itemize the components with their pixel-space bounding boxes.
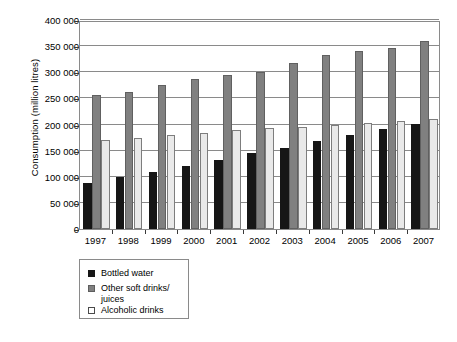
bar xyxy=(355,51,363,229)
bar xyxy=(289,63,297,229)
bar xyxy=(331,125,339,230)
bar xyxy=(313,141,321,229)
x-axis-tick-mark xyxy=(243,230,244,234)
x-axis-tick-mark xyxy=(177,230,178,234)
y-axis-tick-label: 0 xyxy=(5,224,79,235)
x-axis-tick-label: 2007 xyxy=(413,235,434,246)
y-axis-tick-label: 200 000 xyxy=(5,120,79,131)
bar xyxy=(158,85,166,229)
x-axis-tick-mark xyxy=(145,230,146,234)
legend-item: Bottled water xyxy=(88,268,154,279)
x-axis-tick-mark xyxy=(407,230,408,234)
x-axis-tick-mark xyxy=(276,230,277,234)
x-axis-tick-mark xyxy=(309,230,310,234)
y-axis-tick-label: 350 000 xyxy=(5,41,79,52)
x-axis-tick-label: 2005 xyxy=(347,235,368,246)
x-axis-tick-label: 2002 xyxy=(249,235,270,246)
y-axis-tick-label: 250 000 xyxy=(5,93,79,104)
y-axis-tick: 300 000 xyxy=(0,73,79,74)
x-axis-tick-label: 1997 xyxy=(85,235,106,246)
legend-swatch-icon xyxy=(88,307,95,314)
bar xyxy=(411,124,419,229)
plot-area xyxy=(79,21,440,230)
bar xyxy=(397,121,405,229)
gridline xyxy=(80,19,439,20)
x-axis-tick-label: 2000 xyxy=(183,235,204,246)
y-axis-tick: 400 000 xyxy=(0,21,79,22)
bar xyxy=(232,130,240,229)
x-axis-tick-label: 2004 xyxy=(315,235,336,246)
bar xyxy=(134,138,142,229)
bar-group xyxy=(379,22,405,229)
x-axis-tick-label: 2006 xyxy=(380,235,401,246)
chart-figure: Consumption (million litres) 050 000100 … xyxy=(0,0,457,342)
bar-group xyxy=(116,22,142,229)
bar xyxy=(167,135,175,229)
x-axis-tick-mark xyxy=(112,230,113,234)
legend-label: Other soft drinks/ juices xyxy=(101,283,170,305)
bar xyxy=(116,177,124,229)
bar xyxy=(223,75,231,229)
bar xyxy=(346,135,354,229)
y-axis-tick: 250 000 xyxy=(0,99,79,100)
bar xyxy=(364,123,372,229)
bar-group xyxy=(247,22,273,229)
bar-group xyxy=(149,22,175,229)
y-axis-tick: 0 xyxy=(0,230,79,231)
y-axis-tick-label: 400 000 xyxy=(5,15,79,26)
bar xyxy=(280,148,288,230)
bar xyxy=(265,128,273,229)
bar-group xyxy=(346,22,372,229)
y-axis-tick-label: 150 000 xyxy=(5,146,79,157)
chart-legend: Bottled waterOther soft drinks/ juicesAl… xyxy=(79,259,189,319)
x-axis-tick-mark xyxy=(342,230,343,234)
bar xyxy=(182,166,190,229)
bar xyxy=(322,55,330,229)
legend-label: Alcoholic drinks xyxy=(101,305,164,316)
y-axis-tick: 50 000 xyxy=(0,204,79,205)
bar xyxy=(83,183,91,230)
y-axis-tick: 100 000 xyxy=(0,178,79,179)
bar xyxy=(125,92,133,229)
bar xyxy=(379,129,387,229)
bar xyxy=(191,79,199,229)
y-axis-tick: 150 000 xyxy=(0,152,79,153)
y-axis-tick-label: 300 000 xyxy=(5,67,79,78)
bar xyxy=(149,172,157,229)
legend-item: Other soft drinks/ juices xyxy=(88,283,170,305)
bar-group xyxy=(313,22,339,229)
bar-group xyxy=(411,22,437,229)
x-axis-tick-label: 1998 xyxy=(118,235,139,246)
bar xyxy=(200,133,208,229)
bar xyxy=(298,127,306,229)
x-axis-tick-mark xyxy=(210,230,211,234)
bar-group xyxy=(280,22,306,229)
bar xyxy=(247,153,255,229)
y-axis-tick: 350 000 xyxy=(0,47,79,48)
legend-item: Alcoholic drinks xyxy=(88,305,164,316)
y-axis-tick: 200 000 xyxy=(0,126,79,127)
legend-swatch-icon xyxy=(88,285,95,292)
bar-group xyxy=(83,22,109,229)
bar xyxy=(388,48,396,229)
bar xyxy=(420,41,428,229)
bar xyxy=(256,72,264,229)
x-axis-tick-label: 1999 xyxy=(150,235,171,246)
y-axis-tick-label: 50 000 xyxy=(5,198,79,209)
bar xyxy=(101,140,109,229)
x-axis-tick-label: 2001 xyxy=(216,235,237,246)
bar xyxy=(214,160,222,229)
legend-label: Bottled water xyxy=(101,268,154,279)
x-axis-tick-mark xyxy=(374,230,375,234)
bar-groups xyxy=(80,22,439,229)
bar-group xyxy=(214,22,240,229)
bar-group xyxy=(182,22,208,229)
bar xyxy=(429,119,437,229)
legend-swatch-icon xyxy=(88,270,95,277)
x-axis-tick-label: 2003 xyxy=(282,235,303,246)
y-axis-tick-label: 100 000 xyxy=(5,172,79,183)
y-axis-tick-mark xyxy=(74,230,79,231)
bar xyxy=(92,95,100,229)
